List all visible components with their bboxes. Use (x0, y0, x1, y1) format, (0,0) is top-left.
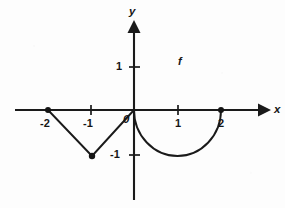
point-2-0 (218, 107, 224, 113)
graph-canvas (0, 0, 285, 208)
origin-label: 0 (123, 114, 129, 126)
x-axis-label: x (274, 104, 280, 116)
x-tick-label-1: 1 (175, 118, 181, 129)
x-tick-label-2: 2 (218, 118, 224, 129)
graph-figure: -2 -1 1 2 1 -1 0 y x f (0, 0, 285, 208)
y-tick-label-1: 1 (116, 61, 122, 72)
y-axis-arrowhead (128, 20, 141, 33)
y-tick-label--1: -1 (110, 149, 120, 160)
x-tick-label--2: -2 (40, 118, 50, 129)
x-axis-arrowhead (258, 104, 271, 117)
point-neg1-neg1 (89, 153, 95, 159)
point-neg2-0 (45, 107, 51, 113)
function-label-f: f (178, 56, 182, 67)
x-tick-label--1: -1 (83, 118, 93, 129)
y-axis-label: y (129, 6, 135, 18)
